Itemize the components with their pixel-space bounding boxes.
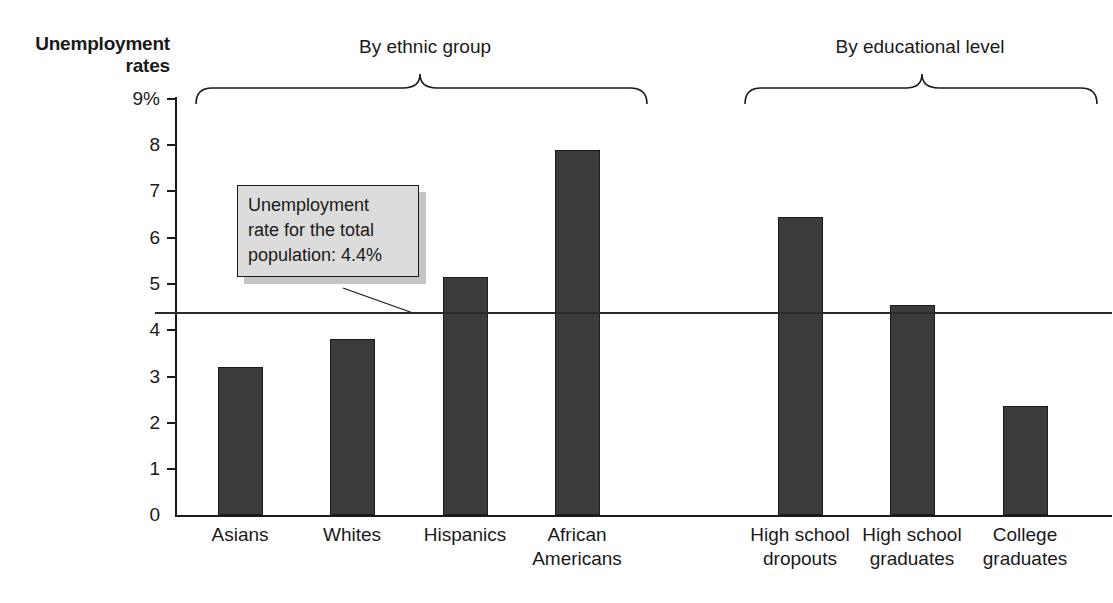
y-tick-label-7: 7 (100, 180, 160, 202)
x-label-african-americans-line1: African (497, 523, 657, 547)
group-label-education: By educational level (745, 36, 1095, 58)
unemployment-rates-bar-chart: Unemployment rates 9% 8 7 6 5 4 3 2 1 0 … (0, 0, 1113, 603)
y-axis-tick (167, 422, 176, 424)
x-label-college-graduates: College graduates (945, 523, 1105, 571)
x-label-college-graduates-line2: graduates (945, 547, 1105, 571)
bar-college-graduates (1003, 406, 1048, 515)
bar-high-school-dropouts (778, 217, 823, 515)
bar-african-americans (555, 150, 600, 515)
bar-high-school-graduates (890, 305, 935, 515)
y-tick-label-3: 3 (100, 366, 160, 388)
x-axis-line (175, 515, 1112, 517)
y-axis-tick (167, 329, 176, 331)
callout-line3: population: 4.4% (248, 243, 409, 268)
callout-line2: rate for the total (248, 218, 409, 243)
y-axis-tick (167, 190, 176, 192)
y-axis-title-line1: Unemployment (0, 33, 170, 55)
y-axis-tick (167, 376, 176, 378)
y-axis-tick (167, 98, 176, 100)
reference-line-total-population (155, 312, 1112, 314)
bar-whites (330, 339, 375, 515)
x-label-african-americans: African Americans (497, 523, 657, 571)
y-tick-label-5: 5 (100, 273, 160, 295)
group-label-ethnic: By ethnic group (250, 36, 600, 58)
y-axis-tick (167, 468, 176, 470)
x-label-african-americans-line2: Americans (497, 547, 657, 571)
y-axis-tick (167, 144, 176, 146)
y-tick-label-9: 9% (100, 88, 160, 110)
y-tick-label-8: 8 (100, 134, 160, 156)
y-tick-label-6: 6 (100, 227, 160, 249)
callout-total-population: Unemployment rate for the total populati… (237, 185, 419, 277)
y-tick-label-1: 1 (100, 458, 160, 480)
callout-leader-line (343, 288, 413, 313)
y-axis-line (175, 97, 177, 517)
y-tick-label-4: 4 (100, 319, 160, 341)
y-tick-label-2: 2 (100, 412, 160, 434)
callout-line1: Unemployment (248, 193, 409, 218)
y-axis-title-line2: rates (0, 55, 170, 77)
bar-asians (218, 367, 263, 515)
y-axis-title: Unemployment rates (0, 33, 170, 77)
y-tick-label-0: 0 (100, 504, 160, 526)
y-axis-tick (167, 237, 176, 239)
brace-ethnic-icon (196, 74, 647, 104)
brace-education-icon (745, 74, 1097, 104)
x-label-college-graduates-line1: College (945, 523, 1105, 547)
y-axis-tick (167, 283, 176, 285)
